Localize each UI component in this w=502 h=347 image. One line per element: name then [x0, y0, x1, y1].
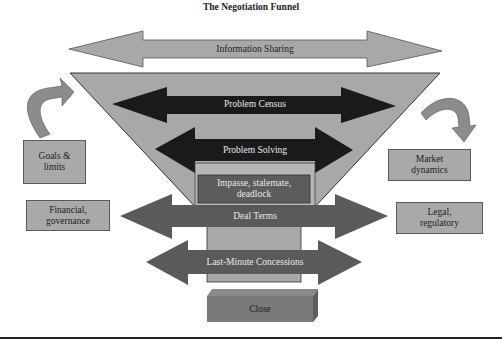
financial-governance-line2: governance	[46, 216, 90, 227]
goals-limits-line2: limits	[44, 162, 66, 173]
market-dynamics-line2: dynamics	[411, 165, 447, 176]
close-label: Close	[207, 304, 313, 315]
deal-terms-label: Deal Terms	[195, 211, 315, 222]
legal-regulatory-box: Legal, regulatory	[396, 202, 483, 234]
last-minute-concessions-label: Last-Minute Concessions	[180, 257, 330, 268]
problem-census-label: Problem Census	[195, 99, 315, 110]
information-sharing-label: Information Sharing	[195, 44, 315, 55]
goals-limits-box: Goals & limits	[23, 140, 86, 184]
market-dynamics-box: Market dynamics	[388, 149, 471, 181]
legal-regulatory-line2: regulatory	[420, 218, 459, 229]
financial-governance-box: Financial, governance	[26, 200, 110, 231]
problem-solving-label: Problem Solving	[195, 145, 315, 156]
financial-governance-line1: Financial,	[49, 205, 87, 216]
curved-arrow-right-icon	[421, 98, 476, 142]
curved-arrow-left-icon	[27, 78, 74, 138]
impasse-label-line1: Impasse, stalemate,	[198, 178, 310, 189]
market-dynamics-line1: Market	[416, 154, 443, 165]
goals-limits-line1: Goals &	[39, 151, 71, 162]
impasse-label-line2: deadlock	[198, 189, 310, 200]
legal-regulatory-line1: Legal,	[427, 207, 451, 218]
bottom-rule	[0, 337, 502, 339]
close-box-top	[207, 289, 318, 296]
